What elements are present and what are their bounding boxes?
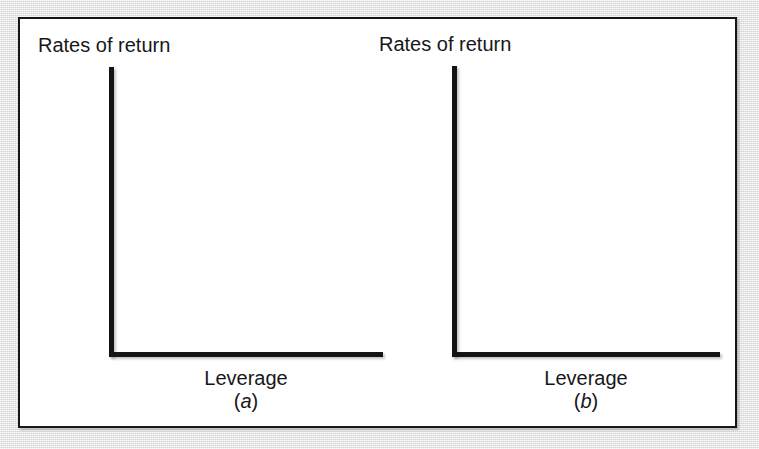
x-axis-label-panel-a: Leverage [109,367,383,389]
y-axis-line-panel-b [452,66,457,357]
y-axis-label-panel-a: Rates of return [38,34,170,56]
panel-caption-a-letter: a [240,390,251,412]
panel-caption-b-close-paren: ) [592,390,599,412]
x-axis-label-panel-b: Leverage [452,367,720,389]
x-axis-line-panel-b [452,352,720,357]
chart-panel-b: Rates of return Leverage (b) [452,19,739,426]
y-axis-label-panel-b: Rates of return [379,33,511,55]
chart-panel-a: Rates of return Leverage (a) [20,19,452,426]
figure-border-box: Rates of return Leverage (a) Rates of re… [18,17,737,428]
panel-caption-b-letter: b [580,390,591,412]
figure-canvas: Rates of return Leverage (a) Rates of re… [0,0,759,449]
panel-caption-a-close-paren: ) [252,390,259,412]
panel-caption-b: (b) [452,390,720,412]
panel-caption-a: (a) [109,390,383,412]
y-axis-line-panel-a [109,67,114,357]
x-axis-line-panel-a [109,352,383,357]
